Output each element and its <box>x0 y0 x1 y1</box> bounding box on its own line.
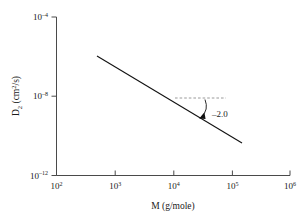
x-axis-title: M (g/mole) <box>151 201 195 212</box>
log-log-plot: 10–4 10–8 10–12 102 103 104 105 <box>0 0 308 219</box>
x-tick-label-1e6: 106 <box>284 181 296 191</box>
x-tick-label-1e2: 102 <box>51 181 63 191</box>
y-axis-title: D2 (cm2/s) <box>10 76 23 116</box>
y-tick-label-1e-8: 10–8 <box>33 91 48 101</box>
x-axis-ticks <box>57 171 291 176</box>
x-tick-labels: 102 103 104 105 106 <box>51 181 297 191</box>
y-tick-label-1e-12: 10–12 <box>30 170 48 180</box>
y-tick-labels: 10–4 10–8 10–12 <box>30 12 48 181</box>
x-tick-label-1e4: 104 <box>168 181 180 191</box>
y-axis-ticks <box>52 17 57 176</box>
data-series-line <box>97 56 242 143</box>
chart-figure: 10–4 10–8 10–12 102 103 104 105 <box>0 0 308 219</box>
axis-frame <box>57 17 291 176</box>
x-tick-label-1e3: 103 <box>109 181 121 191</box>
x-tick-label-1e5: 105 <box>226 181 238 191</box>
y-tick-label-1e-4: 10–4 <box>33 12 48 22</box>
slope-value-label: –2.0 <box>211 109 228 119</box>
